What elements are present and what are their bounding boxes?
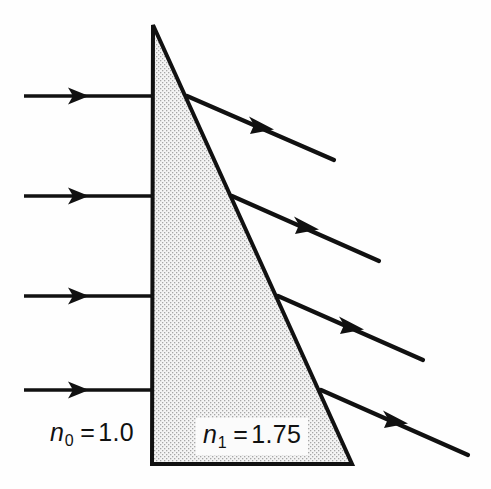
n1-subscript: 1 [217,434,228,451]
refractive-index-inside-label: n1=1.75 [196,418,308,455]
wedge-prism [152,25,352,464]
refractive-index-outside-label: n0=1.0 [50,418,134,450]
n1-symbol: n [203,420,217,448]
diagram-canvas [0,0,491,489]
n0-equals: = [75,418,98,446]
n1-equals: = [228,420,251,448]
n0-subscript: 0 [64,432,75,449]
incident-ray-group [24,88,153,399]
refraction-diagram: n0=1.0 n1=1.75 [0,0,491,489]
n0-value: 1.0 [98,418,134,446]
n0-symbol: n [50,418,64,446]
n1-value: 1.75 [251,420,301,448]
